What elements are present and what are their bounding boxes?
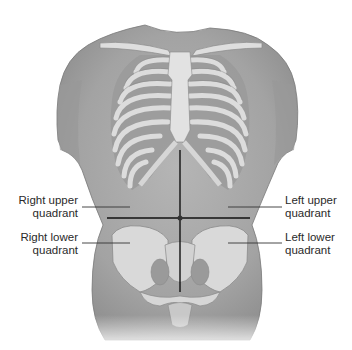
label-left-lower-line1: Left lower <box>285 231 352 244</box>
label-left-lower-line2: quadrant <box>285 244 352 257</box>
umbilicus-marker <box>178 216 183 221</box>
label-left-upper-line1: Left upper <box>285 194 352 207</box>
label-left-upper-quadrant: Left upper quadrant <box>285 194 352 220</box>
left-obturator <box>191 259 209 285</box>
label-right-upper-line2: quadrant <box>0 207 78 220</box>
sternum <box>168 52 192 142</box>
label-right-lower-line2: quadrant <box>0 244 78 257</box>
right-obturator <box>151 259 169 285</box>
label-right-lower-quadrant: Right lower quadrant <box>0 231 78 257</box>
label-left-lower-quadrant: Left lower quadrant <box>285 231 352 257</box>
label-right-lower-line1: Right lower <box>0 231 78 244</box>
label-left-upper-line2: quadrant <box>285 207 352 220</box>
torso-illustration <box>0 0 352 350</box>
label-right-upper-line1: Right upper <box>0 194 78 207</box>
label-right-upper-quadrant: Right upper quadrant <box>0 194 78 220</box>
